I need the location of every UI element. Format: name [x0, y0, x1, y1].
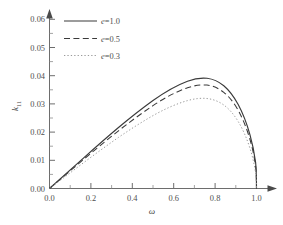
legend-label-e0.3: e=0.3 [101, 52, 120, 61]
legend-value: =1.0 [105, 17, 120, 26]
legend-value: =0.3 [105, 52, 120, 61]
legend-label-e1.0: e=1.0 [101, 17, 120, 26]
series-line-e1.0 [50, 78, 257, 188]
chart-legend: e=1.0 e=0.5 e=0.3 [64, 17, 120, 61]
legend-value: =0.5 [105, 35, 120, 44]
y-tick-labels: 0.06 0.05 0.04 0.03 0.02 0.01 0.00 [30, 15, 45, 193]
legend-item-e0.3: e=0.3 [64, 52, 120, 61]
y-tick-marks [50, 19, 56, 188]
x-tick-marks [50, 183, 257, 189]
series-line-e0.3 [50, 98, 257, 188]
y-tick-label: 0.02 [30, 128, 45, 137]
x-tick-label: 0.2 [86, 194, 96, 203]
y-axis-title: k11 [10, 101, 22, 111]
legend-label-e0.5: e=0.5 [101, 35, 120, 44]
y-axis-arrow-icon [46, 9, 53, 19]
legend-item-e1.0: e=1.0 [64, 17, 120, 26]
y-tick-label: 0.03 [30, 100, 45, 109]
x-tick-labels: 0.0 0.2 0.4 0.6 0.8 1.0 [44, 194, 261, 203]
series-curves [50, 78, 257, 188]
chart-plot-area: 0.06 0.05 0.04 0.03 0.02 0.01 0.00 0.0 0… [0, 0, 283, 225]
y-tick-label: 0.00 [30, 185, 45, 194]
x-tick-label: 0.8 [210, 194, 220, 203]
x-axis-title: ω [149, 206, 155, 216]
x-tick-label: 0.0 [44, 194, 54, 203]
y-tick-label: 0.05 [30, 44, 45, 53]
y-tick-label: 0.01 [30, 156, 45, 165]
chart-figure: 0.06 0.05 0.04 0.03 0.02 0.01 0.00 0.0 0… [0, 0, 283, 225]
legend-item-e0.5: e=0.5 [64, 35, 120, 44]
x-axis-arrow-icon [268, 185, 278, 192]
x-tick-label: 0.6 [168, 194, 178, 203]
y-tick-label: 0.06 [30, 15, 45, 24]
x-tick-label: 1.0 [251, 194, 261, 203]
y-axis-title-subscript: 11 [16, 101, 22, 107]
svg-text:k11: k11 [10, 101, 22, 111]
y-tick-label: 0.04 [30, 72, 45, 81]
x-tick-label: 0.4 [127, 194, 138, 203]
